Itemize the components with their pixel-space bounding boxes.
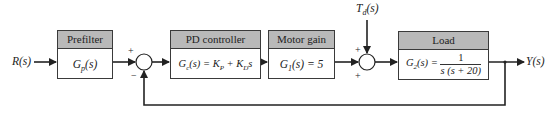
prefilter-expression: Gp(s) xyxy=(58,49,112,84)
disturbance-label-td: Td(s) xyxy=(356,2,379,17)
load-fraction: 1 s (s + 20) xyxy=(440,52,481,77)
pd-controller-expression: Gc(s) = KP + KDs xyxy=(171,49,260,83)
pd-controller-title: PD controller xyxy=(171,31,260,49)
output-label-y: Y(s) xyxy=(526,55,545,67)
prefilter-title: Prefilter xyxy=(58,31,112,49)
sum1-minus-sign: − xyxy=(131,70,137,81)
summing-junction-1 xyxy=(136,54,152,70)
motor-gain-title: Motor gain xyxy=(269,31,334,49)
input-label-r: R(s) xyxy=(12,55,31,67)
motor-gain-expression: G1(s) = 5 xyxy=(269,49,334,84)
load-block: Load G2(s) = 1 s (s + 20) xyxy=(398,31,489,80)
sum1-plus-sign: + xyxy=(128,45,134,56)
load-title: Load xyxy=(399,32,488,50)
sum2-bottom-plus-sign: + xyxy=(355,70,361,81)
summing-junction-2 xyxy=(359,54,375,70)
pd-controller-block: PD controller Gc(s) = KP + KDs xyxy=(170,30,261,79)
motor-gain-block: Motor gain G1(s) = 5 xyxy=(268,30,335,79)
prefilter-block: Prefilter Gp(s) xyxy=(57,30,113,79)
sum2-top-plus-sign: + xyxy=(355,44,361,55)
load-expression: G2(s) = 1 s (s + 20) xyxy=(399,50,488,77)
